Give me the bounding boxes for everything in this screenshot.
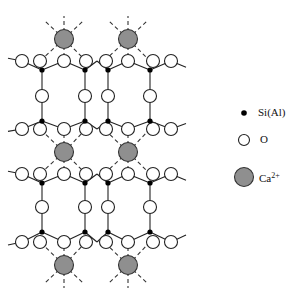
oxygen-atom [80, 236, 93, 249]
framework-atoms [16, 30, 178, 275]
framework-bonds [8, 58, 186, 245]
oxygen-atom [16, 123, 29, 136]
silicon-atom [105, 67, 110, 72]
zeolite-framework-diagram [0, 0, 298, 301]
oxygen-atom [80, 55, 93, 68]
oxygen-atom [147, 123, 160, 136]
oxygen-atom [100, 123, 113, 136]
oxygen-atom [144, 201, 157, 214]
oxygen-atom [80, 123, 93, 136]
oxygen-atom [147, 236, 160, 249]
oxygen-atom [144, 90, 157, 103]
silicon-atom [147, 229, 152, 234]
oxygen-atom [58, 55, 71, 68]
silicon-atom [39, 229, 44, 234]
legend-symbols [235, 110, 254, 186]
legend-label-o: O [260, 134, 268, 145]
oxygen-atom [16, 168, 29, 181]
silicon-atom [147, 118, 152, 123]
silicon-atom [105, 118, 110, 123]
silicon-atom [105, 229, 110, 234]
silicon-atom [147, 67, 152, 72]
legend-si-icon [241, 110, 247, 116]
legend-label-ca-charge: 2+ [271, 171, 280, 180]
oxygen-atom [147, 55, 160, 68]
oxygen-atom [102, 90, 115, 103]
silicon-atom [147, 180, 152, 185]
silicon-atom [82, 180, 87, 185]
oxygen-atom [165, 55, 178, 68]
silicon-atom [39, 67, 44, 72]
calcium-ion [55, 143, 74, 162]
oxygen-atom [147, 168, 160, 181]
oxygen-atom [122, 168, 135, 181]
legend-label-ca-text: Ca [259, 172, 271, 184]
silicon-atom [39, 118, 44, 123]
oxygen-atom [34, 123, 47, 136]
oxygen-atom [58, 168, 71, 181]
silicon-atom [82, 229, 87, 234]
oxygen-atom [34, 55, 47, 68]
legend-o-icon [239, 135, 250, 146]
oxygen-atom [16, 55, 29, 68]
calcium-ion [119, 30, 138, 49]
oxygen-atom [58, 236, 71, 249]
oxygen-atom [165, 168, 178, 181]
oxygen-atom [36, 201, 49, 214]
oxygen-atom [100, 55, 113, 68]
legend-label-ca: Ca2+ [259, 172, 280, 184]
oxygen-atom [80, 168, 93, 181]
oxygen-atom [165, 123, 178, 136]
oxygen-atom [100, 168, 113, 181]
oxygen-atom [79, 90, 92, 103]
oxygen-atom [34, 236, 47, 249]
oxygen-atom [36, 90, 49, 103]
oxygen-atom [122, 55, 135, 68]
oxygen-atom [100, 236, 113, 249]
oxygen-atom [102, 201, 115, 214]
oxygen-atom [16, 236, 29, 249]
oxygen-atom [165, 236, 178, 249]
calcium-ion [119, 143, 138, 162]
silicon-atom [82, 118, 87, 123]
calcium-ion [119, 256, 138, 275]
oxygen-atom [34, 168, 47, 181]
calcium-ion [55, 30, 74, 49]
oxygen-atom [58, 123, 71, 136]
legend-ca-icon [235, 168, 254, 187]
calcium-ion [55, 256, 74, 275]
legend-label-si: Si(Al) [258, 107, 286, 118]
oxygen-atom [122, 236, 135, 249]
oxygen-atom [122, 123, 135, 136]
silicon-atom [82, 67, 87, 72]
silicon-atom [105, 180, 110, 185]
silicon-atom [39, 180, 44, 185]
oxygen-atom [79, 201, 92, 214]
